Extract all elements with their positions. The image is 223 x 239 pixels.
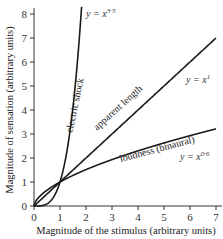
x-axis-title: Magnitude of the stimulus (arbitrary uni… (36, 225, 216, 237)
y-tick-label: 1 (22, 176, 28, 188)
equation-loudness: y = x0·6 (179, 150, 210, 162)
y-tick-label: 2 (22, 152, 28, 164)
x-tick-label: 4 (135, 211, 141, 223)
equation-shock: y = x3·5 (85, 7, 116, 19)
svg-text:y = x3·5: y = x3·5 (85, 7, 116, 19)
x-tick-label: 3 (109, 211, 115, 223)
y-tick-label: 5 (22, 80, 28, 92)
y-axis-title: Magnitude of sensation (arbitrary units) (4, 26, 16, 194)
y-tick-label: 7 (22, 32, 28, 44)
y-tick-label: 8 (22, 8, 28, 20)
x-tick-label: 5 (161, 211, 167, 223)
y-ticks: 012345678 (22, 8, 35, 212)
power-law-chart: 012345678 01234567 Magnitude of sensatio… (0, 0, 223, 239)
x-tick-label: 6 (187, 211, 193, 223)
svg-text:y = x1: y = x1 (185, 73, 210, 85)
electric-shock-label: electric shock (63, 77, 85, 133)
y-tick-label: 4 (22, 104, 28, 116)
x-tick-label: 0 (31, 211, 37, 223)
x-tick-label: 1 (57, 211, 63, 223)
x-tick-label: 7 (213, 211, 219, 223)
y-tick-label: 6 (22, 56, 28, 68)
x-tick-label: 2 (83, 211, 89, 223)
equation-length: y = x1 (185, 73, 210, 85)
y-tick-label: 3 (22, 128, 28, 140)
y-tick-label: 0 (22, 200, 28, 212)
svg-text:y = x0·6: y = x0·6 (179, 150, 210, 162)
apparent-length-label: apparent length (91, 83, 144, 133)
x-ticks: 01234567 (31, 206, 219, 223)
